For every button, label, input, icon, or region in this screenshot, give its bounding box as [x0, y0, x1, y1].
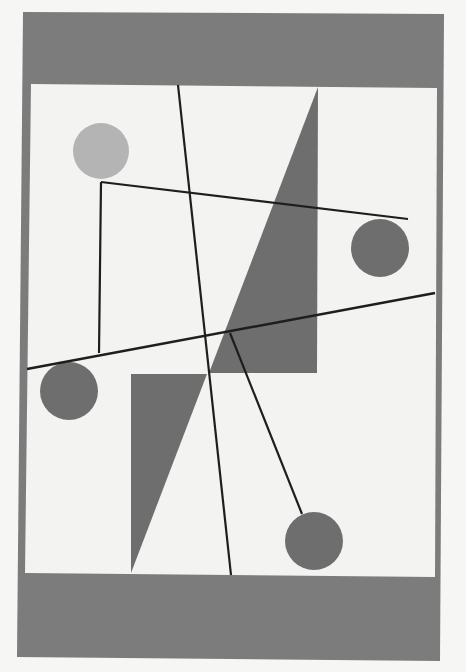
circle-right	[351, 219, 409, 277]
abstract-artwork	[0, 0, 466, 672]
circle-left	[40, 362, 98, 420]
circle-bottom	[285, 512, 343, 570]
light-circle-top-left	[73, 123, 129, 179]
artwork-canvas	[0, 0, 466, 672]
